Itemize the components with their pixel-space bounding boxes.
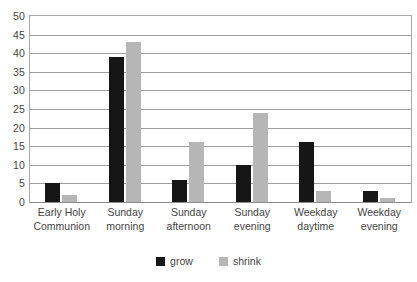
y-tick-label-50: 50: [13, 10, 25, 22]
x-tick-label-line: Weekday: [284, 206, 348, 220]
bars-layer: [30, 16, 411, 202]
x-tick-label: Sundayevening: [221, 206, 285, 233]
y-tick-label-40: 40: [13, 47, 25, 59]
bar-grow: [172, 180, 187, 202]
bar-grow: [109, 57, 124, 202]
x-tick-label-line: Communion: [30, 220, 94, 234]
y-tick-label-5: 5: [19, 177, 25, 189]
bar-group: [284, 16, 348, 202]
x-tick-label-line: evening: [348, 220, 412, 234]
bar-group: [157, 16, 221, 202]
x-tick-label: Sundayafternoon: [157, 206, 221, 233]
y-tick-label-45: 45: [13, 29, 25, 41]
legend-swatch-grow: [156, 257, 165, 266]
y-tick-label-35: 35: [13, 66, 25, 78]
x-tick-label-line: Weekday: [348, 206, 412, 220]
legend-item-grow[interactable]: grow: [156, 256, 193, 267]
x-tick-label: Weekdaydaytime: [284, 206, 348, 233]
x-tick-label: Early HolyCommunion: [30, 206, 94, 233]
bar-group: [221, 16, 285, 202]
y-tick-label-10: 10: [13, 159, 25, 171]
legend-swatch-shrink: [219, 257, 228, 266]
bar-group: [94, 16, 158, 202]
x-tick-label-line: morning: [94, 220, 158, 234]
bar-grow: [45, 183, 60, 202]
bar-shrink: [62, 195, 77, 202]
x-tick-label: Weekdayevening: [348, 206, 412, 233]
x-tick-label-line: daytime: [284, 220, 348, 234]
bar-shrink: [126, 42, 141, 202]
x-tick-label-line: Sunday: [94, 206, 158, 220]
bar-shrink: [189, 142, 204, 202]
bar-grow: [236, 165, 251, 202]
bar-shrink: [380, 198, 395, 202]
chart-legend: growshrink: [0, 256, 417, 267]
x-tick-label-line: Sunday: [221, 206, 285, 220]
x-tick-label-line: Early Holy: [30, 206, 94, 220]
bar-grow: [299, 142, 314, 202]
bar-group: [30, 16, 94, 202]
bar-shrink: [253, 113, 268, 202]
y-axis: 50454035302520151050: [0, 15, 25, 203]
x-axis: Early HolyCommunionSundaymorningSundayaf…: [30, 206, 411, 246]
legend-label-shrink: shrink: [233, 256, 261, 267]
x-tick-label: Sundaymorning: [94, 206, 158, 233]
legend-item-shrink[interactable]: shrink: [219, 256, 261, 267]
x-tick-label-line: afternoon: [157, 220, 221, 234]
bar-chart: 50454035302520151050 Early HolyCommunion…: [0, 0, 417, 282]
x-tick-label-line: evening: [221, 220, 285, 234]
y-tick-label-0: 0: [19, 196, 25, 208]
bar-shrink: [316, 191, 331, 202]
bar-group: [348, 16, 412, 202]
y-tick-label-20: 20: [13, 122, 25, 134]
x-tick-label-line: Sunday: [157, 206, 221, 220]
bar-grow: [363, 191, 378, 202]
legend-label-grow: grow: [170, 256, 193, 267]
y-tick-label-15: 15: [13, 140, 25, 152]
gridline-0: [30, 202, 411, 203]
y-tick-label-30: 30: [13, 84, 25, 96]
y-tick-label-25: 25: [13, 103, 25, 115]
